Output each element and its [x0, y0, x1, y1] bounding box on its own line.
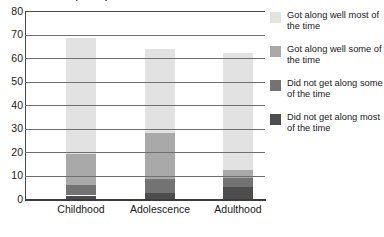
legend-swatch-did-not-get-along-most [270, 114, 281, 125]
bar-segment-adulthood-s2[interactable] [223, 170, 253, 178]
y-axis: 01020304050607080 [0, 0, 23, 237]
legend-label-2: Did not get along some of the time [287, 78, 384, 101]
gridline-40 [25, 105, 265, 106]
bar-segment-adulthood-s0[interactable] [223, 187, 253, 199]
x-axis-line [25, 199, 266, 201]
legend-item-3[interactable]: Did not get along most of the time [270, 112, 384, 138]
legend-label-1: Got along well some of the time [287, 44, 384, 67]
bar-segment-childhood-s2[interactable] [66, 154, 96, 185]
y-tick-label-60: 60 [1, 53, 23, 63]
y-tick-label-20: 20 [1, 147, 23, 157]
chart-title: Relationship with parents over time [26, 0, 266, 2]
y-tick-label-40: 40 [1, 100, 23, 110]
y-tick-label-80: 80 [1, 6, 23, 16]
gridline-30 [25, 129, 265, 130]
y-tick-label-50: 50 [1, 76, 23, 86]
y-tick-label-30: 30 [1, 123, 23, 133]
stacked-bar-chart: Relationship with parents over time 0102… [0, 0, 384, 237]
bar-segment-adolescence-s3[interactable] [145, 49, 175, 134]
gridline-10 [25, 176, 265, 177]
gridline-20 [25, 152, 265, 153]
y-tick-label-10: 10 [1, 170, 23, 180]
bar-segment-adolescence-s2[interactable] [145, 133, 175, 179]
bar-segment-adolescence-s1[interactable] [145, 179, 175, 193]
gridline-60 [25, 58, 265, 59]
gridline-70 [25, 35, 265, 36]
legend-label-3: Did not get along most of the time [287, 112, 384, 135]
bar-segment-childhood-s1[interactable] [66, 185, 96, 196]
legend-swatch-did-not-get-along-some [270, 80, 281, 91]
legend-swatch-got-along-well-some [270, 46, 281, 57]
legend-item-1[interactable]: Got along well some of the time [270, 44, 384, 70]
bar-segment-childhood-s3[interactable] [66, 38, 96, 154]
gridline-50 [25, 82, 265, 83]
bar-segment-adolescence-s0[interactable] [145, 193, 175, 199]
bar-segment-adulthood-s1[interactable] [223, 178, 253, 187]
legend-label-0: Got along well most of the time [287, 10, 384, 33]
legend-swatch-got-along-well-most [270, 12, 281, 23]
y-tick-label-0: 0 [1, 194, 23, 204]
chart-legend: Got along well most of the timeGot along… [270, 10, 384, 146]
legend-item-2[interactable]: Did not get along some of the time [270, 78, 384, 104]
y-tick-label-70: 70 [1, 29, 23, 39]
legend-item-0[interactable]: Got along well most of the time [270, 10, 384, 36]
x-category-label-adulthood: Adulthood [188, 203, 288, 215]
bar-segment-childhood-s0[interactable] [66, 196, 96, 200]
